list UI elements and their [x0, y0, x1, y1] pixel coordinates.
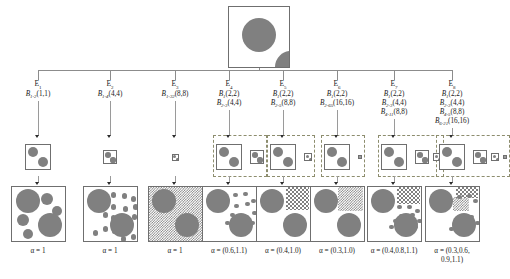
result-circle-E7-2 — [394, 213, 418, 237]
mid-box-E6-2 — [358, 155, 362, 159]
result-dot-E2-15 — [131, 234, 136, 239]
branch-label-E3: E3 — [155, 80, 195, 90]
b-label-E2-1: B1-4(4,4) — [78, 91, 142, 99]
result-dot-E7-6 — [417, 219, 421, 224]
result-dot-E7-3 — [415, 209, 420, 214]
texture-checker-corner-E8 — [453, 197, 469, 211]
result-box-E5 — [256, 186, 311, 242]
mid-circle-E8-1-2 — [452, 157, 462, 167]
b-arguments: (8,8) — [451, 108, 465, 116]
result-dot-E7-2 — [407, 205, 412, 210]
b-subscript: 1-32 — [166, 94, 175, 99]
mid-box-E3-1 — [172, 154, 179, 161]
branch-label-subscript: 4 — [230, 85, 233, 90]
b-arguments: (2,2) — [391, 90, 405, 98]
b-arguments: (2,2) — [226, 90, 240, 98]
mid-circle-E7-2-2 — [422, 157, 427, 162]
mid-circle-E7-1-1 — [384, 147, 394, 157]
arrow-shaft-label-to-mid-E1 — [38, 101, 39, 136]
branch-label-subscript: 8 — [453, 85, 456, 90]
result-circle-E5-2 — [283, 213, 307, 237]
mid-box-E2-1 — [103, 150, 117, 164]
mid-circle-E6-1-2 — [337, 157, 347, 167]
mid-circle-E5-1-2 — [283, 157, 293, 167]
mid-circle-E4-1-1 — [219, 147, 229, 157]
branch-label-E4: E4 — [209, 80, 249, 90]
mid-circle-E8-4-2 — [506, 158, 507, 159]
alpha-caption-E1: α = 1 — [4, 248, 72, 256]
arrow-head-mid-to-result-E5 — [280, 182, 284, 185]
b-arguments: (1,1) — [37, 90, 51, 98]
arrow-head-mid-to-result-E6 — [334, 182, 338, 185]
mid-box-E4-2 — [250, 150, 264, 164]
b-arguments: (8,8) — [282, 99, 296, 107]
branch-label-subscript: 5 — [284, 85, 287, 90]
arrow-head-label-to-mid-E7 — [391, 135, 395, 138]
mid-box-E4-1 — [216, 144, 242, 170]
result-dot-E7-1 — [397, 205, 402, 210]
arrow-head-mid-to-result-E2 — [107, 182, 111, 185]
result-circle-E3-2 — [175, 213, 199, 237]
arrow-head-mid-to-result-E8 — [449, 182, 453, 185]
result-dot-E8-3 — [473, 199, 477, 203]
texture-checker-corner-E5 — [286, 187, 310, 210]
branch-label-E1: E1 — [18, 80, 58, 90]
branch-label-E7: E7 — [374, 80, 414, 90]
b-arguments: (4,4) — [109, 90, 123, 98]
b-arguments: (2,2) — [334, 90, 348, 98]
result-circle-E1-5 — [38, 213, 62, 237]
result-dot-E2-1 — [111, 192, 116, 197]
result-dot-E8-6 — [475, 221, 479, 225]
result-circle-E8-2 — [452, 213, 476, 237]
root-circle-2 — [275, 51, 290, 68]
mid-box-E5-1 — [270, 144, 296, 170]
branch-label-subscript: 6 — [338, 85, 341, 90]
result-dot-E2-14 — [121, 236, 126, 241]
branch-bus-line — [38, 70, 452, 71]
result-circle-E4-2 — [229, 213, 253, 237]
branch-label-E6: E6 — [317, 80, 357, 90]
mid-circle-E8-2-2 — [480, 157, 485, 162]
result-circle-E1-1 — [16, 189, 40, 213]
mid-circle-E5-2-2 — [309, 158, 312, 161]
b-subscript: 4-11 — [385, 112, 393, 117]
root-image-box — [228, 6, 290, 68]
result-dot-E4-2 — [243, 192, 248, 197]
result-box-E7 — [367, 186, 422, 242]
result-dot-E2-4 — [111, 204, 116, 209]
result-circle-E3-1 — [152, 189, 176, 213]
b-arguments: (4,4) — [451, 99, 465, 107]
arrow-head-label-to-mid-E2 — [107, 135, 111, 138]
arrow-head-label-to-mid-E5 — [280, 135, 284, 138]
b-arguments: (16,16) — [333, 99, 354, 107]
result-dot-E2-8 — [103, 226, 108, 231]
mid-box-E1-1 — [25, 144, 51, 170]
result-dot-E2-2 — [122, 193, 127, 198]
result-box-E1 — [11, 186, 66, 242]
arrow-head-mid-to-result-E4 — [226, 182, 230, 185]
mid-circle-E4-1-2 — [229, 157, 239, 167]
mid-box-E8-2 — [473, 150, 487, 164]
branch-label-E5: E5 — [263, 80, 303, 90]
b-arguments: (8,8) — [175, 90, 189, 98]
b-arguments: (4,4) — [393, 99, 407, 107]
result-circle-E1-6 — [23, 229, 33, 239]
b-arguments: (2,2) — [280, 90, 294, 98]
branch-label-E2: E2 — [90, 80, 130, 90]
result-box-E4 — [202, 186, 257, 242]
arrow-head-mid-to-result-E1 — [35, 182, 39, 185]
result-dot-E2-3 — [131, 196, 136, 201]
branch-label-subscript: 1 — [39, 85, 42, 90]
mid-circle-E6-2-2 — [361, 158, 362, 159]
result-circle-E8-1 — [429, 189, 453, 213]
arrow-head-label-to-mid-E6 — [334, 135, 338, 138]
mid-circle-E3-1-2 — [176, 158, 178, 160]
texture-checker-corner-E6 — [338, 187, 363, 211]
b-arguments: (8,8) — [394, 108, 408, 116]
mid-circle-E6-1-1 — [327, 147, 337, 157]
result-dot-E2-5 — [123, 206, 128, 211]
mid-box-E8-3 — [491, 153, 499, 161]
result-dot-E8-2 — [467, 194, 471, 198]
b-arguments: (16,16) — [448, 117, 469, 125]
